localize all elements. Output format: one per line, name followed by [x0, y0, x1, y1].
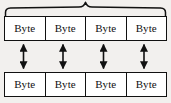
byte-cell-top-1: Byte [5, 17, 45, 40]
byte-label: Byte [14, 23, 35, 34]
byte-cell-bottom-4: Byte [126, 73, 167, 96]
byte-cell-top-3: Byte [85, 17, 126, 40]
byte-cell-bottom-2: Byte [45, 73, 86, 96]
byte-label: Byte [55, 79, 76, 90]
byte-label: Byte [14, 79, 35, 90]
lower-byte-row: Byte Byte Byte Byte [4, 72, 167, 97]
byte-cell-top-2: Byte [45, 17, 86, 40]
byte-label: Byte [95, 79, 116, 90]
byte-cell-bottom-1: Byte [5, 73, 45, 96]
byte-label: Byte [136, 23, 157, 34]
byte-cell-bottom-3: Byte [85, 73, 126, 96]
byte-cell-top-4: Byte [126, 17, 167, 40]
upper-byte-row: Byte Byte Byte Byte [4, 16, 167, 41]
byte-grouping-diagram: Byte Byte Byte Byte Byte Byte [0, 0, 171, 103]
byte-label: Byte [95, 23, 116, 34]
byte-label: Byte [136, 79, 157, 90]
byte-label: Byte [55, 23, 76, 34]
